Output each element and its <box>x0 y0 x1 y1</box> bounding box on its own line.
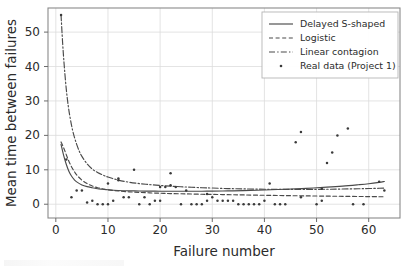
data-point <box>347 127 350 130</box>
data-point <box>321 187 324 190</box>
legend-label: Linear contagion <box>300 46 379 57</box>
data-point <box>138 203 141 206</box>
svg-text:40: 40 <box>257 223 272 237</box>
data-point <box>180 203 183 206</box>
data-point <box>117 177 120 180</box>
svg-text:20: 20 <box>152 223 167 237</box>
data-point <box>268 182 271 185</box>
data-point <box>201 203 204 206</box>
data-point <box>190 203 193 206</box>
data-point <box>232 200 235 203</box>
data-point <box>242 203 245 206</box>
data-point <box>175 186 178 189</box>
x-axis-ticks: 0102030405060 <box>52 218 376 237</box>
data-point <box>102 203 105 206</box>
data-point <box>122 196 125 199</box>
legend-label: Real data (Project 1) <box>300 60 396 71</box>
chart-canvas: 0102030405060 01020304050 Failure number… <box>0 0 414 270</box>
legend-label: Logistic <box>300 32 336 43</box>
data-point <box>362 203 365 206</box>
data-point <box>70 196 73 199</box>
y-axis-ticks: 01020304050 <box>25 25 48 211</box>
svg-text:10: 10 <box>25 163 40 177</box>
data-point <box>154 200 157 203</box>
legend-marker-icon <box>280 65 283 68</box>
data-point <box>143 196 146 199</box>
data-point <box>331 151 334 154</box>
data-point <box>148 203 151 206</box>
svg-text:0: 0 <box>52 223 60 237</box>
data-point <box>107 182 110 185</box>
data-point <box>169 184 172 187</box>
data-point <box>221 200 224 203</box>
data-point <box>60 14 63 17</box>
data-point <box>96 203 99 206</box>
data-point <box>383 189 386 192</box>
data-point <box>300 131 303 134</box>
data-point <box>326 162 329 165</box>
data-point <box>86 201 89 204</box>
series-solid <box>61 144 384 191</box>
data-point <box>185 189 188 192</box>
data-point <box>169 172 172 175</box>
data-point <box>159 200 162 203</box>
svg-text:20: 20 <box>25 128 40 142</box>
data-point <box>279 203 282 206</box>
data-point <box>206 193 209 196</box>
data-point <box>65 158 68 161</box>
footer-artifact <box>4 260 124 266</box>
data-point <box>321 200 324 203</box>
data-point <box>315 203 318 206</box>
data-point <box>91 200 94 203</box>
data-point <box>81 189 84 192</box>
data-point <box>253 203 256 206</box>
data-point <box>378 181 381 184</box>
data-point <box>336 134 339 137</box>
legend-label: Delayed S-shaped <box>300 18 385 29</box>
data-point <box>107 203 110 206</box>
svg-text:30: 30 <box>205 223 220 237</box>
data-point <box>112 200 115 203</box>
data-point <box>263 200 266 203</box>
svg-text:50: 50 <box>309 223 324 237</box>
svg-text:30: 30 <box>25 94 40 108</box>
x-axis-label: Failure number <box>173 243 275 259</box>
data-point <box>258 203 261 206</box>
data-point <box>211 196 214 199</box>
svg-text:40: 40 <box>25 60 40 74</box>
data-point <box>237 203 240 206</box>
data-point <box>300 196 303 199</box>
data-point <box>195 203 198 206</box>
data-point <box>133 169 136 172</box>
data-point <box>227 200 230 203</box>
svg-text:10: 10 <box>100 223 115 237</box>
data-point <box>164 186 167 189</box>
svg-text:60: 60 <box>361 223 376 237</box>
data-point <box>284 203 287 206</box>
data-point <box>128 196 131 199</box>
data-point <box>274 203 277 206</box>
chart-legend: Delayed S-shapedLogisticLinear contagion… <box>262 12 398 78</box>
data-point <box>75 189 78 192</box>
data-point <box>352 203 355 206</box>
svg-text:50: 50 <box>25 25 40 39</box>
data-point <box>248 203 251 206</box>
data-point <box>294 141 297 144</box>
figure-container: 0102030405060 01020304050 Failure number… <box>0 0 414 270</box>
y-axis-label: Mean time between failures <box>3 19 19 207</box>
data-point <box>216 200 219 203</box>
data-point <box>206 200 209 203</box>
svg-text:0: 0 <box>32 197 40 211</box>
data-point <box>159 186 162 189</box>
